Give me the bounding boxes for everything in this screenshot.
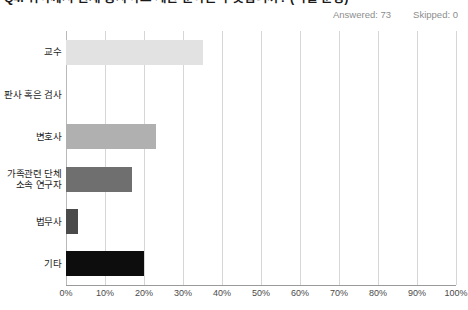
bar-5[interactable] bbox=[66, 209, 78, 234]
x-tick-30%: 30% bbox=[174, 288, 192, 298]
x-tick-70%: 70% bbox=[330, 288, 348, 298]
bar-chart bbox=[66, 31, 456, 285]
response-summary: Answered: 73 Skipped: 0 bbox=[333, 9, 458, 20]
y-axis-label: 변호사 bbox=[0, 116, 62, 158]
bar-row bbox=[66, 31, 456, 73]
gridline-100% bbox=[456, 31, 457, 285]
x-tick-0%: 0% bbox=[59, 288, 72, 298]
y-axis-label: 가족관련 단체소속 연구자 bbox=[0, 158, 62, 200]
bar-4[interactable] bbox=[66, 167, 132, 192]
y-axis-label: 법무사 bbox=[0, 200, 62, 242]
bar-3[interactable] bbox=[66, 124, 156, 149]
x-tick-10%: 10% bbox=[96, 288, 114, 298]
x-tick-50%: 50% bbox=[252, 288, 270, 298]
x-tick-20%: 20% bbox=[135, 288, 153, 298]
bar-row bbox=[66, 200, 456, 242]
x-axis-labels: 0%10%20%30%40%50%60%70%80%90%100% bbox=[66, 288, 456, 304]
bar-row bbox=[66, 158, 456, 200]
bar-row bbox=[66, 116, 456, 158]
answered-count: Answered: 73 bbox=[333, 9, 391, 20]
page-title: Q4. 귀하께서 현재 종사하고 계신 분야는 무엇입니까? (택일 문항) bbox=[4, 0, 348, 5]
bar-1[interactable] bbox=[66, 40, 203, 65]
y-axis-labels: 교수판사 혹은 검사변호사가족관련 단체소속 연구자법무사기타 bbox=[0, 31, 62, 285]
bar-6[interactable] bbox=[66, 251, 144, 276]
x-tick-80%: 80% bbox=[369, 288, 387, 298]
question-title-row: Q4. 귀하께서 현재 종사하고 계신 분야는 무엇입니까? (택일 문항) bbox=[4, 0, 348, 6]
x-tick-60%: 60% bbox=[291, 288, 309, 298]
bar-row bbox=[66, 243, 456, 285]
x-tick-90%: 90% bbox=[408, 288, 426, 298]
bar-row bbox=[66, 73, 456, 115]
y-axis-label: 교수 bbox=[0, 31, 62, 73]
x-tick-40%: 40% bbox=[213, 288, 231, 298]
bar-rows bbox=[66, 31, 456, 285]
y-axis-label: 판사 혹은 검사 bbox=[0, 73, 62, 115]
skipped-count: Skipped: 0 bbox=[413, 9, 458, 20]
x-axis-line bbox=[66, 285, 456, 286]
x-tick-100%: 100% bbox=[444, 288, 467, 298]
y-axis-label: 기타 bbox=[0, 243, 62, 285]
